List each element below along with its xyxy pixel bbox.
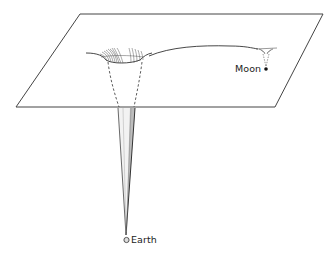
earth-gravity-cone [118, 108, 135, 235]
earth-label: Earth [131, 234, 157, 245]
moon-dot-icon [264, 67, 268, 71]
moon-label: Moon [235, 63, 261, 74]
earth-dot-icon [124, 237, 129, 242]
spacetime-plane [16, 14, 323, 107]
spacetime-diagram [0, 0, 331, 255]
